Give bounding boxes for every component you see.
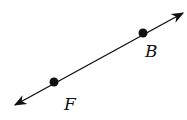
point-f-label: F bbox=[63, 94, 77, 114]
line-diagram: B F bbox=[0, 0, 187, 120]
point-b-dot bbox=[139, 29, 148, 38]
line-fb bbox=[15, 13, 183, 105]
line-figure: B F bbox=[0, 0, 187, 120]
point-b-label: B bbox=[144, 41, 158, 61]
point-f-dot bbox=[50, 78, 59, 87]
